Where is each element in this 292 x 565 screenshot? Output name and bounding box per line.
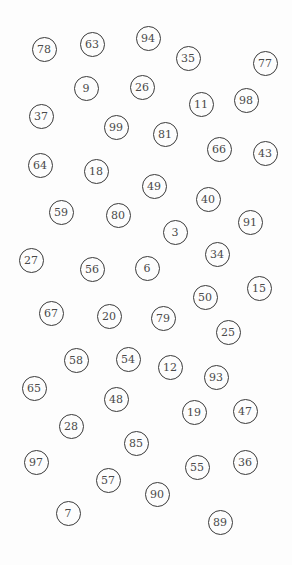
- number-label: 36: [238, 457, 252, 468]
- number-label: 26: [135, 82, 149, 93]
- number-circle-12[interactable]: 12: [158, 355, 183, 380]
- number-circle-20[interactable]: 20: [97, 304, 122, 329]
- number-circle-94[interactable]: 94: [136, 26, 161, 51]
- number-label: 98: [239, 95, 253, 106]
- number-circle-18[interactable]: 18: [84, 159, 109, 184]
- number-circle-43[interactable]: 43: [253, 141, 278, 166]
- number-label: 28: [64, 421, 78, 432]
- number-label: 47: [238, 406, 252, 417]
- number-label: 77: [258, 58, 272, 69]
- number-label: 6: [144, 263, 151, 274]
- number-circle-37[interactable]: 37: [29, 104, 54, 129]
- number-circle-26[interactable]: 26: [130, 75, 155, 100]
- number-circle-6[interactable]: 6: [135, 256, 160, 281]
- number-label: 55: [190, 462, 204, 473]
- number-label: 40: [201, 194, 215, 205]
- number-label: 37: [34, 111, 48, 122]
- number-circle-canvas: 7863943577926119837998166436418494059803…: [0, 0, 292, 565]
- number-circle-48[interactable]: 48: [104, 387, 129, 412]
- number-circle-67[interactable]: 67: [39, 301, 64, 326]
- number-circle-27[interactable]: 27: [19, 248, 44, 273]
- number-label: 27: [24, 255, 38, 266]
- number-circle-99[interactable]: 99: [104, 115, 129, 140]
- number-label: 3: [172, 227, 179, 238]
- number-label: 81: [158, 129, 172, 140]
- number-circle-93[interactable]: 93: [204, 365, 229, 390]
- number-circle-81[interactable]: 81: [153, 122, 178, 147]
- number-circle-59[interactable]: 59: [49, 200, 74, 225]
- number-circle-49[interactable]: 49: [142, 174, 167, 199]
- number-label: 91: [243, 217, 257, 228]
- number-circle-91[interactable]: 91: [238, 210, 263, 235]
- number-circle-9[interactable]: 9: [74, 76, 99, 101]
- number-label: 63: [85, 39, 99, 50]
- number-label: 66: [212, 144, 226, 155]
- number-label: 54: [121, 354, 135, 365]
- number-label: 15: [252, 283, 266, 294]
- number-label: 20: [102, 311, 116, 322]
- number-label: 50: [198, 292, 212, 303]
- number-circle-34[interactable]: 34: [205, 242, 230, 267]
- number-circle-57[interactable]: 57: [96, 468, 121, 493]
- number-label: 65: [27, 383, 41, 394]
- number-label: 57: [101, 475, 115, 486]
- number-label: 97: [29, 457, 43, 468]
- number-label: 48: [109, 394, 123, 405]
- number-circle-66[interactable]: 66: [207, 137, 232, 162]
- number-circle-35[interactable]: 35: [176, 46, 201, 71]
- number-circle-28[interactable]: 28: [59, 414, 84, 439]
- number-circle-89[interactable]: 89: [208, 510, 233, 535]
- number-label: 7: [65, 508, 72, 519]
- number-circle-65[interactable]: 65: [22, 376, 47, 401]
- number-circle-85[interactable]: 85: [124, 431, 149, 456]
- number-circle-80[interactable]: 80: [106, 203, 131, 228]
- number-circle-50[interactable]: 50: [193, 285, 218, 310]
- number-circle-77[interactable]: 77: [253, 51, 278, 76]
- number-label: 59: [54, 207, 68, 218]
- number-label: 18: [89, 166, 103, 177]
- number-circle-19[interactable]: 19: [182, 400, 207, 425]
- number-circle-36[interactable]: 36: [233, 450, 258, 475]
- number-label: 94: [141, 33, 155, 44]
- number-label: 49: [147, 181, 161, 192]
- number-circle-56[interactable]: 56: [80, 257, 105, 282]
- number-circle-47[interactable]: 47: [233, 399, 258, 424]
- number-circle-63[interactable]: 63: [80, 32, 105, 57]
- number-label: 12: [163, 362, 177, 373]
- number-circle-58[interactable]: 58: [64, 348, 89, 373]
- number-label: 43: [258, 148, 272, 159]
- number-label: 9: [83, 83, 90, 94]
- number-label: 78: [37, 44, 51, 55]
- number-circle-54[interactable]: 54: [116, 347, 141, 372]
- number-circle-78[interactable]: 78: [32, 37, 57, 62]
- number-label: 80: [111, 210, 125, 221]
- number-label: 11: [194, 99, 208, 110]
- number-label: 89: [213, 517, 227, 528]
- number-label: 19: [187, 407, 201, 418]
- number-label: 25: [221, 327, 235, 338]
- number-circle-3[interactable]: 3: [163, 220, 188, 245]
- number-label: 35: [181, 53, 195, 64]
- number-circle-98[interactable]: 98: [234, 88, 259, 113]
- number-circle-55[interactable]: 55: [185, 455, 210, 480]
- number-label: 64: [33, 160, 47, 171]
- number-circle-90[interactable]: 90: [145, 482, 170, 507]
- number-circle-7[interactable]: 7: [56, 501, 81, 526]
- number-label: 79: [156, 313, 170, 324]
- number-circle-11[interactable]: 11: [189, 92, 214, 117]
- number-circle-25[interactable]: 25: [216, 320, 241, 345]
- number-label: 56: [85, 264, 99, 275]
- number-label: 67: [44, 308, 58, 319]
- number-label: 34: [210, 249, 224, 260]
- number-circle-64[interactable]: 64: [28, 153, 53, 178]
- number-label: 99: [109, 122, 123, 133]
- number-label: 93: [209, 372, 223, 383]
- number-circle-15[interactable]: 15: [247, 276, 272, 301]
- number-label: 90: [150, 489, 164, 500]
- number-label: 58: [69, 355, 83, 366]
- number-circle-79[interactable]: 79: [151, 306, 176, 331]
- number-circle-40[interactable]: 40: [196, 187, 221, 212]
- number-circle-97[interactable]: 97: [24, 450, 49, 475]
- number-label: 85: [129, 438, 143, 449]
